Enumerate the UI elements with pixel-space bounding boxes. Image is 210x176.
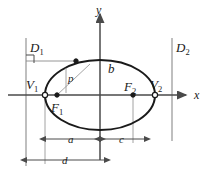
directrix-label-d2: D2 bbox=[175, 40, 190, 57]
dimension-label-c: c bbox=[119, 133, 124, 145]
semi-minor-axis-label: b bbox=[108, 61, 115, 76]
dimension-label-a: a bbox=[68, 133, 74, 145]
point-label-f2: F2 bbox=[123, 79, 136, 96]
dimension-label-d: d bbox=[62, 154, 68, 166]
diagram-labels: x y b p V1F1F2V2D1D2 acd bbox=[26, 3, 200, 166]
point-marker-v2 bbox=[152, 92, 157, 97]
point-label-v2: V2 bbox=[150, 77, 162, 94]
point-marker-p bbox=[74, 59, 78, 63]
directrix-lines bbox=[26, 38, 172, 166]
x-axis-label: x bbox=[193, 88, 200, 102]
y-axis-label: y bbox=[95, 3, 102, 17]
diagram-canvas: x y b p V1F1F2V2D1D2 acd bbox=[0, 0, 210, 176]
dimension-labels: acd bbox=[62, 133, 124, 166]
point-marker-f1 bbox=[55, 93, 59, 97]
ellipse-diagram: x y b p V1F1F2V2D1D2 acd bbox=[0, 0, 210, 176]
point-marker-v1 bbox=[42, 92, 47, 97]
right-angle-marker bbox=[26, 55, 34, 63]
point-label-f1: F1 bbox=[50, 100, 63, 117]
point-label-v1: V1 bbox=[26, 77, 38, 94]
focal-parameter-label: p bbox=[67, 72, 74, 84]
dimension-lines bbox=[26, 139, 145, 160]
directrix-label-d1: D1 bbox=[29, 40, 44, 57]
